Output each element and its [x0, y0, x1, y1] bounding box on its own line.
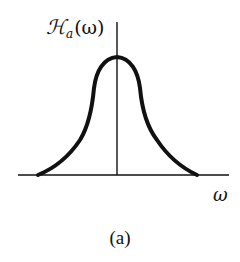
- y-axis-label-argument: (ω): [74, 16, 104, 38]
- y-axis-label-subscript: a: [66, 27, 73, 41]
- frequency-response-figure: ℋa(ω) ω (a): [0, 0, 240, 262]
- y-axis-label: ℋa(ω): [46, 17, 104, 37]
- figure-caption: (a): [0, 228, 240, 247]
- y-axis-label-symbol: ℋ: [46, 15, 66, 39]
- x-axis-label: ω: [213, 186, 228, 204]
- response-plot: [0, 0, 240, 262]
